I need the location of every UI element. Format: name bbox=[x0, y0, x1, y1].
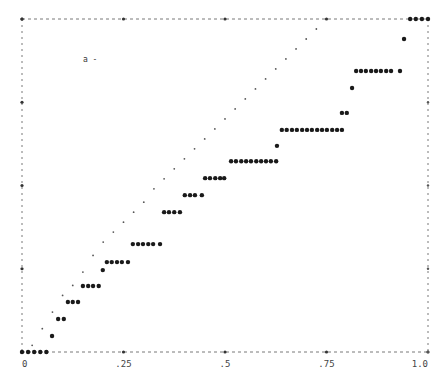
step-point bbox=[305, 128, 309, 132]
step-point bbox=[234, 159, 238, 163]
reference-point bbox=[255, 88, 257, 90]
step-point bbox=[81, 284, 85, 288]
step-point bbox=[335, 128, 339, 132]
step-point bbox=[105, 260, 109, 264]
x-tick-mark-top bbox=[325, 17, 328, 20]
y-tick-mark bbox=[20, 184, 23, 187]
step-point bbox=[364, 69, 368, 73]
annotations: a - bbox=[83, 55, 97, 64]
x-tick-label: 1.0 bbox=[412, 359, 428, 369]
y-tick-mark bbox=[20, 101, 23, 104]
reference-diagonal-series bbox=[31, 28, 317, 346]
step-point bbox=[56, 317, 60, 321]
reference-point bbox=[92, 255, 94, 257]
step-point bbox=[295, 128, 299, 132]
y-tick-mark bbox=[20, 17, 23, 20]
step-point bbox=[384, 69, 388, 73]
step-point bbox=[213, 176, 217, 180]
annotation-label: a - bbox=[83, 55, 97, 64]
step-point bbox=[26, 350, 30, 354]
step-point bbox=[244, 159, 248, 163]
reference-point bbox=[214, 128, 216, 130]
y-tick-mark bbox=[20, 267, 23, 270]
reference-point bbox=[234, 108, 236, 110]
step-point bbox=[200, 193, 204, 197]
step-point bbox=[340, 128, 344, 132]
step-point bbox=[280, 128, 284, 132]
step-point bbox=[315, 128, 319, 132]
step-series bbox=[20, 17, 430, 354]
step-point bbox=[193, 193, 197, 197]
reference-point bbox=[163, 178, 165, 180]
x-tick-labels: 0.25.5.751.0 bbox=[22, 359, 428, 369]
step-point bbox=[151, 242, 155, 246]
y-tick-mark-right bbox=[427, 351, 429, 353]
step-point bbox=[97, 284, 101, 288]
x-tick-mark bbox=[122, 350, 125, 353]
step-point bbox=[141, 242, 145, 246]
step-point bbox=[290, 128, 294, 132]
step-point bbox=[110, 260, 114, 264]
step-point bbox=[222, 176, 226, 180]
step-point bbox=[264, 159, 268, 163]
step-point bbox=[269, 159, 273, 163]
step-point bbox=[208, 176, 212, 180]
step-point bbox=[20, 350, 24, 354]
reference-point bbox=[305, 38, 307, 40]
reference-point bbox=[133, 211, 135, 213]
reference-point bbox=[265, 78, 267, 80]
step-point bbox=[300, 128, 304, 132]
step-point bbox=[320, 128, 324, 132]
step-point bbox=[218, 176, 222, 180]
x-tick-label: .5 bbox=[220, 359, 231, 369]
reference-point bbox=[123, 221, 125, 223]
step-point bbox=[239, 159, 243, 163]
step-point bbox=[62, 317, 66, 321]
step-point bbox=[389, 69, 393, 73]
step-point bbox=[44, 350, 48, 354]
step-point bbox=[188, 193, 192, 197]
step-point bbox=[374, 69, 378, 73]
step-point bbox=[426, 17, 430, 21]
step-point bbox=[325, 128, 329, 132]
step-point bbox=[274, 159, 278, 163]
reference-point bbox=[62, 294, 64, 296]
step-point bbox=[162, 210, 166, 214]
step-point bbox=[254, 159, 258, 163]
y-tick-mark-right bbox=[427, 184, 429, 186]
step-point bbox=[167, 210, 171, 214]
reference-point bbox=[41, 328, 43, 330]
step-point bbox=[136, 242, 140, 246]
step-point bbox=[126, 260, 130, 264]
y-tick-mark-right bbox=[427, 101, 429, 103]
reference-point bbox=[184, 158, 186, 160]
reference-point bbox=[112, 231, 114, 233]
reference-point bbox=[295, 48, 297, 50]
step-point bbox=[259, 159, 263, 163]
step-point bbox=[345, 111, 349, 115]
x-tick-label: 0 bbox=[22, 359, 27, 369]
step-point bbox=[71, 300, 75, 304]
step-point bbox=[76, 300, 80, 304]
x-tick-mark bbox=[223, 350, 226, 353]
reference-point bbox=[31, 344, 33, 346]
step-point bbox=[66, 300, 70, 304]
step-point bbox=[203, 176, 207, 180]
step-point bbox=[398, 69, 402, 73]
step-point bbox=[340, 111, 344, 115]
step-point bbox=[120, 260, 124, 264]
x-tick-label: .25 bbox=[115, 359, 131, 369]
step-point bbox=[285, 128, 289, 132]
plot-frame bbox=[22, 19, 428, 352]
axis-ticks bbox=[20, 17, 429, 353]
step-point bbox=[50, 334, 54, 338]
reference-point bbox=[285, 58, 287, 60]
step-point bbox=[178, 210, 182, 214]
step-point bbox=[101, 268, 105, 272]
x-tick-mark bbox=[325, 350, 328, 353]
reference-point bbox=[275, 68, 277, 70]
step-point bbox=[354, 69, 358, 73]
x-tick-mark-top bbox=[122, 17, 125, 20]
reference-point bbox=[194, 148, 196, 150]
step-point bbox=[91, 284, 95, 288]
